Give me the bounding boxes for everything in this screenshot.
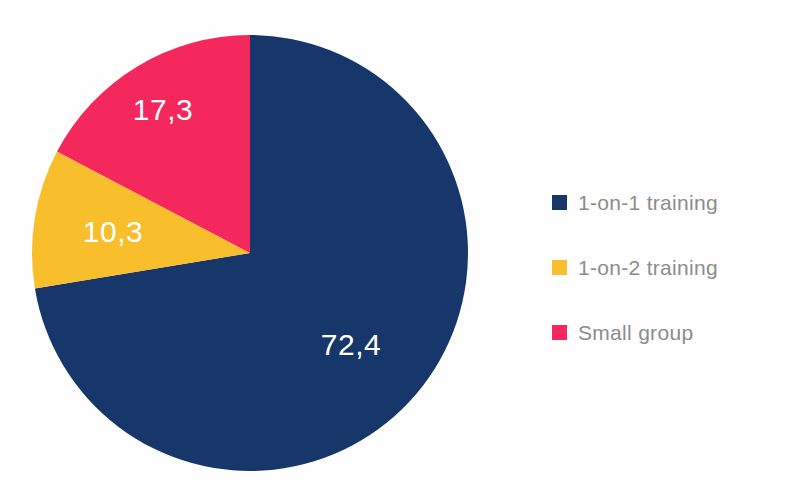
- legend: 1-on-1 training 1-on-2 training Small gr…: [552, 170, 792, 365]
- legend-swatch-icon-1-on-1-training: [552, 195, 567, 210]
- legend-label-1-on-2-training: 1-on-2 training: [578, 256, 718, 280]
- legend-item-1-on-1-training[interactable]: 1-on-1 training: [552, 170, 792, 235]
- legend-label-1-on-1-training: 1-on-1 training: [578, 191, 718, 215]
- legend-swatch-icon-small-group: [552, 325, 567, 340]
- slice-value-label-1-on-1-training: 72,4: [321, 328, 381, 362]
- legend-item-1-on-2-training[interactable]: 1-on-2 training: [552, 235, 792, 300]
- legend-label-small-group: Small group: [578, 321, 693, 345]
- legend-swatch-icon-1-on-2-training: [552, 260, 567, 275]
- slice-value-label-1-on-2-training: 10,3: [83, 215, 143, 249]
- clipped-title: [0, 0, 801, 2]
- pie-svg: [31, 34, 469, 472]
- legend-item-small-group[interactable]: Small group: [552, 300, 792, 365]
- pie-chart: 72,4 10,3 17,3 1-on-1 training 1-on-2 tr…: [0, 0, 801, 494]
- slice-value-label-small-group: 17,3: [133, 93, 193, 127]
- pie-graphic: [31, 34, 469, 472]
